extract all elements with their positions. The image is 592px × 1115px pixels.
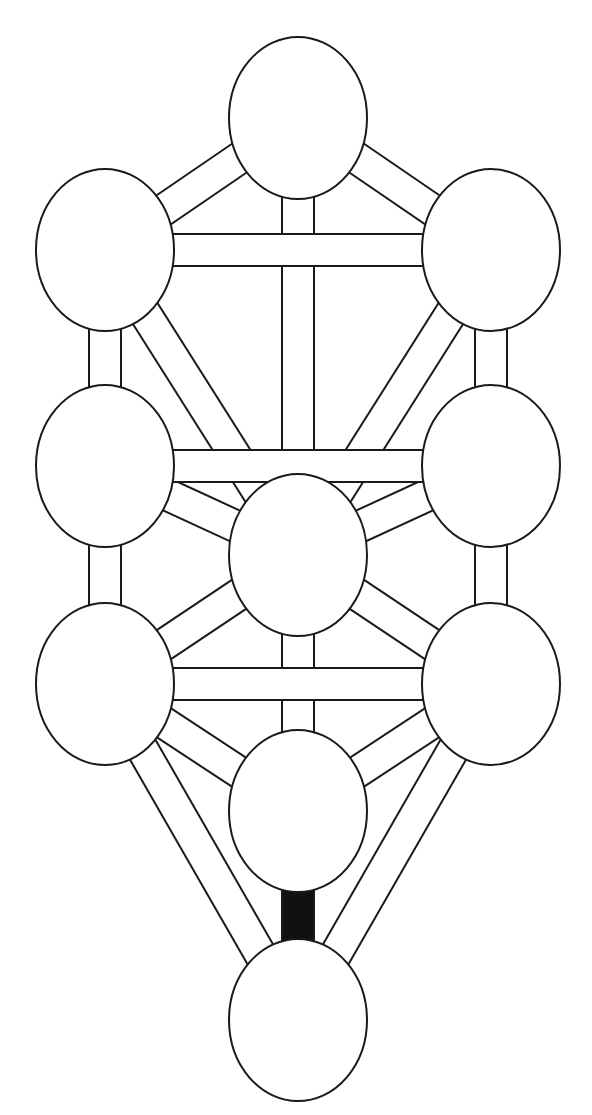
tree-of-life-diagram bbox=[0, 0, 592, 1115]
node-n2 bbox=[422, 169, 560, 331]
node-n6 bbox=[229, 474, 367, 636]
node-n4 bbox=[422, 385, 560, 547]
node-n5 bbox=[36, 385, 174, 547]
node-n10 bbox=[229, 939, 367, 1101]
node-n7 bbox=[422, 603, 560, 765]
node-n1 bbox=[229, 37, 367, 199]
node-n3 bbox=[36, 169, 174, 331]
node-n8 bbox=[36, 603, 174, 765]
node-n9 bbox=[229, 730, 367, 892]
